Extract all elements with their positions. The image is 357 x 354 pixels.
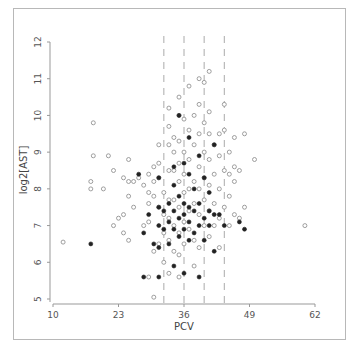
- open-point: [177, 253, 181, 257]
- open-point: [157, 143, 161, 147]
- filled-point: [162, 209, 166, 213]
- filled-point: [192, 187, 196, 191]
- open-point: [147, 220, 151, 224]
- y-tick-label: 11: [33, 73, 43, 84]
- open-point: [197, 246, 201, 250]
- open-point: [147, 275, 151, 279]
- open-point: [217, 187, 221, 191]
- open-point: [112, 169, 116, 173]
- filled-point: [182, 271, 186, 275]
- open-point: [127, 158, 131, 162]
- y-tick-label: 6: [33, 259, 43, 265]
- open-point: [162, 260, 166, 264]
- open-point: [202, 150, 206, 154]
- open-point: [227, 150, 231, 154]
- open-point: [212, 224, 216, 228]
- open-point: [227, 194, 231, 198]
- open-point: [192, 264, 196, 268]
- x-ticks: 1023364962: [47, 304, 320, 320]
- filled-point: [182, 213, 186, 217]
- filled-point: [147, 213, 151, 217]
- open-point: [162, 191, 166, 195]
- filled-point: [177, 235, 181, 239]
- filled-point: [167, 220, 171, 224]
- filled-point: [177, 113, 181, 117]
- open-point: [157, 161, 161, 165]
- open-point: [91, 154, 95, 158]
- open-point: [212, 202, 216, 206]
- open-point: [117, 216, 121, 220]
- open-point: [237, 216, 241, 220]
- filled-point: [167, 202, 171, 206]
- filled-point: [237, 220, 241, 224]
- filled-point: [157, 205, 161, 209]
- filled-point: [157, 176, 161, 180]
- open-point: [152, 249, 156, 253]
- open-point: [142, 183, 146, 187]
- filled-point: [187, 220, 191, 224]
- filled-point: [172, 264, 176, 268]
- filled-point: [142, 231, 146, 235]
- open-point: [167, 216, 171, 220]
- open-point: [177, 161, 181, 165]
- open-point: [207, 158, 211, 162]
- open-point: [182, 220, 186, 224]
- open-point: [167, 169, 171, 173]
- open-point: [147, 172, 151, 176]
- filled-point: [162, 227, 166, 231]
- filled-point: [197, 224, 201, 228]
- filled-point: [187, 136, 191, 140]
- open-point: [177, 95, 181, 99]
- open-point: [167, 124, 171, 128]
- open-point: [172, 169, 176, 173]
- open-point: [89, 180, 93, 184]
- open-point: [197, 77, 201, 81]
- open-point: [89, 187, 93, 191]
- open-point: [122, 176, 126, 180]
- open-point: [197, 132, 201, 136]
- open-point: [232, 136, 236, 140]
- open-point: [253, 158, 257, 162]
- filled-point: [207, 191, 211, 195]
- filled-point: [187, 172, 191, 176]
- filled-point: [197, 275, 201, 279]
- open-point: [172, 150, 176, 154]
- open-point: [227, 172, 231, 176]
- filled-point: [207, 209, 211, 213]
- open-point: [167, 106, 171, 110]
- open-point: [232, 165, 236, 169]
- filled-point: [202, 176, 206, 180]
- filled-point: [172, 227, 176, 231]
- filled-point: [182, 202, 186, 206]
- open-point: [192, 202, 196, 206]
- filled-point: [89, 242, 93, 246]
- open-point: [207, 235, 211, 239]
- open-point: [197, 213, 201, 217]
- open-point: [217, 154, 221, 158]
- open-point: [202, 198, 206, 202]
- open-point: [217, 132, 221, 136]
- open-point: [222, 102, 226, 106]
- open-point: [106, 154, 110, 158]
- filled-point: [187, 205, 191, 209]
- y-tick-label: 7: [33, 223, 43, 229]
- open-point: [157, 242, 161, 246]
- open-point: [192, 113, 196, 117]
- open-point: [167, 271, 171, 275]
- open-point: [232, 180, 236, 184]
- open-point: [127, 238, 131, 242]
- open-point: [172, 136, 176, 140]
- open-point: [232, 213, 236, 217]
- filled-point: [202, 238, 206, 242]
- filled-point: [192, 231, 196, 235]
- filled-point: [142, 275, 146, 279]
- open-point: [222, 128, 226, 132]
- open-point: [147, 202, 151, 206]
- open-point: [202, 80, 206, 84]
- filled-point: [182, 161, 186, 165]
- open-point: [162, 231, 166, 235]
- open-point: [101, 187, 105, 191]
- x-tick-label: 36: [178, 310, 190, 320]
- open-point: [177, 231, 181, 235]
- filled-point: [157, 246, 161, 250]
